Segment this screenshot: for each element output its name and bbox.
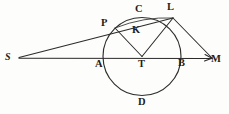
point-label-s: S bbox=[5, 52, 11, 62]
chord-p-to-l bbox=[115, 18, 173, 28]
line-s-to-l bbox=[19, 18, 173, 58]
geometry-figure: S P C L K A T B M D bbox=[0, 0, 229, 114]
geometry-canvas bbox=[0, 0, 229, 114]
point-label-b: B bbox=[178, 58, 185, 69]
point-label-t: T bbox=[138, 59, 145, 70]
point-label-l: L bbox=[167, 2, 174, 13]
point-label-k: K bbox=[132, 25, 140, 36]
point-label-d: D bbox=[138, 97, 146, 108]
line-l-to-m bbox=[173, 18, 212, 58]
point-label-m: M bbox=[211, 54, 221, 65]
point-label-a: A bbox=[95, 59, 103, 70]
point-label-c: C bbox=[135, 4, 143, 15]
line-t-to-l bbox=[142, 18, 173, 57]
point-label-p: P bbox=[101, 18, 108, 29]
